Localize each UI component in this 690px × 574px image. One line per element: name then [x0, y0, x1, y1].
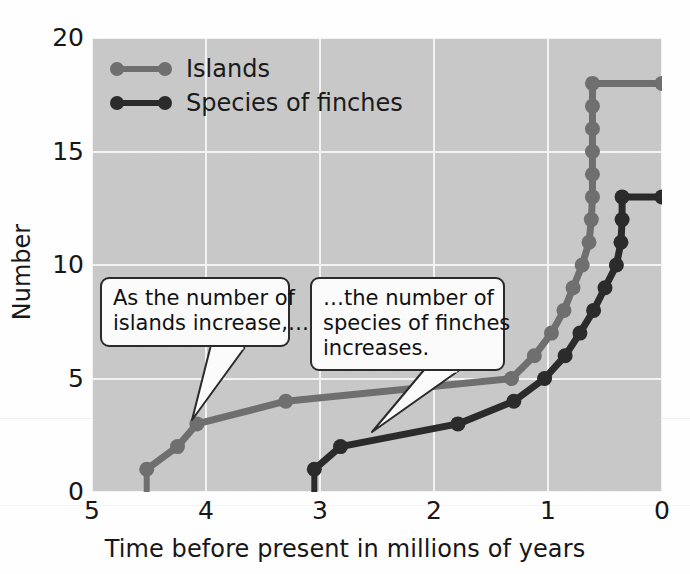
chart-root: Islands Species of finches As the number…: [0, 0, 690, 574]
x-axis-title: Time before present in millions of years: [0, 535, 690, 563]
legend-label-finches: Species of finches: [186, 91, 403, 115]
legend-item-islands: Islands: [110, 52, 403, 86]
gridline-horizontal: [92, 151, 662, 153]
gridline-horizontal: [92, 378, 662, 380]
y-tick-label: 5: [28, 366, 84, 391]
y-tick-label: 15: [28, 139, 84, 164]
annotation-islands-callout: As the number of islands increase,…: [100, 277, 290, 347]
legend-label-islands: Islands: [186, 57, 270, 81]
x-tick-label: 5: [72, 498, 112, 523]
gridline-horizontal: [92, 38, 662, 39]
annotation-line: increases.: [323, 336, 492, 361]
y-tick-label: 10: [28, 252, 84, 277]
legend-swatch-finches: [110, 92, 172, 114]
x-axis-tick-labels: 543210: [0, 498, 690, 534]
annotation-finches-callout: …the number of species of finches increa…: [310, 277, 505, 371]
x-tick-label: 2: [414, 498, 454, 523]
legend-swatch-islands: [110, 58, 172, 80]
chart-legend: Islands Species of finches: [110, 52, 403, 120]
annotation-line: As the number of: [113, 286, 277, 311]
y-axis-title: Number: [8, 192, 36, 352]
annotation-line: islands increase,…: [113, 311, 277, 336]
x-tick-label: 1: [528, 498, 568, 523]
gridline-horizontal: [92, 491, 662, 492]
annotation-line: species of finches: [323, 311, 492, 336]
gridline-horizontal: [92, 264, 662, 266]
x-tick-label: 4: [186, 498, 226, 523]
x-tick-label: 0: [642, 498, 682, 523]
legend-item-finches: Species of finches: [110, 86, 403, 120]
y-tick-label: 20: [28, 25, 84, 50]
x-tick-label: 3: [300, 498, 340, 523]
annotation-line: …the number of: [323, 286, 492, 311]
